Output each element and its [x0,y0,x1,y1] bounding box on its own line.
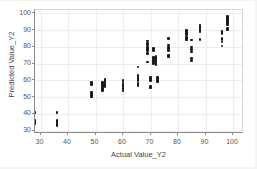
x-axis-tick-mark [122,133,123,135]
x-axis-tick-mark [232,133,233,135]
x-axis-tick-mark [40,133,41,135]
data-point [137,82,140,85]
x-axis-tick-label: 50 [83,138,107,145]
data-point [146,52,149,55]
data-point [221,37,224,40]
data-point [56,119,59,122]
data-point [167,37,170,40]
x-axis-tick-labels: 30405060708090100 [34,138,243,148]
x-axis-tick-marks [34,133,243,136]
data-point [226,15,229,18]
data-point [190,39,193,42]
data-point [122,79,125,82]
gridline-horizontal [35,131,242,132]
y-axis-tick-mark [32,29,34,30]
y-axis-tick-mark [32,96,34,97]
data-point [167,54,170,57]
gridline-horizontal [35,64,242,65]
y-axis-tick-mark [32,12,34,13]
x-axis-tick-label: 70 [138,138,162,145]
gridline-horizontal [35,47,242,48]
x-axis-tick-mark [150,133,151,135]
data-point [149,85,152,88]
y-axis-tick-mark [32,63,34,64]
card-edge-bottom [0,167,257,169]
gridline-horizontal [35,13,242,14]
y-axis-tick-mark [32,113,34,114]
data-point [190,48,193,51]
data-point [152,47,155,50]
x-axis-title: Actual Value_Y2 [34,150,243,159]
data-point [190,57,193,60]
y-axis-tick-marks [31,9,34,133]
x-axis-tick-label: 90 [193,138,217,145]
data-point [190,60,193,63]
card-edge-right [255,0,257,169]
y-axis-title: Predicted Value_Y2 [7,3,16,127]
x-axis-tick-label: 30 [28,138,52,145]
data-point [34,119,36,122]
data-point [190,46,193,49]
x-axis-tick-label: 60 [110,138,134,145]
y-axis-tick-mark [32,46,34,47]
y-axis-tick-mark [32,130,34,131]
card-edge-top [0,0,257,1]
x-axis-tick-label: 100 [220,138,244,145]
data-point [90,81,93,84]
x-axis-tick-label: 40 [55,138,79,145]
scatter-chart-card: 30405060708090100 30405060708090100 Pred… [0,0,257,169]
gridline-horizontal [35,30,242,31]
data-point [199,38,202,41]
x-axis-tick-mark [95,133,96,135]
y-axis-tick-mark [32,79,34,80]
data-point [190,51,193,54]
data-point [146,42,149,45]
gridline-horizontal [35,114,242,115]
x-axis-tick-mark [205,133,206,135]
data-point [226,27,229,30]
data-point [56,111,59,114]
data-point [137,74,140,77]
x-axis-tick-mark [177,133,178,135]
y-axis-tick-labels: 30405060708090100 [0,9,31,133]
x-axis-tick-mark [67,133,68,135]
gridline-horizontal [35,97,242,98]
x-axis-tick-label: 80 [165,138,189,145]
data-point [137,66,140,69]
plot-area [34,9,243,133]
y-axis-tick-label: 30 [3,126,31,133]
